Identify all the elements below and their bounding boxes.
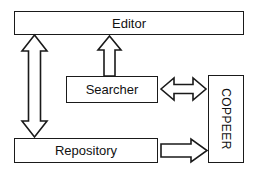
arrow-searcher-coppeer-bidirectional-icon [160,77,207,101]
node-coppeer-label: COPPEER [220,88,232,149]
node-searcher: Searcher [66,76,158,103]
arrow-editor-repository-bidirectional-icon [21,34,48,138]
arrow-repository-to-coppeer-right-icon [160,138,208,163]
architecture-diagram: Editor Searcher Repository COPPEER [0,0,257,174]
node-searcher-label: Searcher [86,83,139,96]
node-repository: Repository [14,138,158,163]
node-editor: Editor [14,11,244,35]
arrow-searcher-to-editor-up-icon [97,35,122,77]
node-editor-label: Editor [112,17,146,30]
node-repository-label: Repository [55,144,117,157]
node-coppeer: COPPEER [208,75,244,163]
